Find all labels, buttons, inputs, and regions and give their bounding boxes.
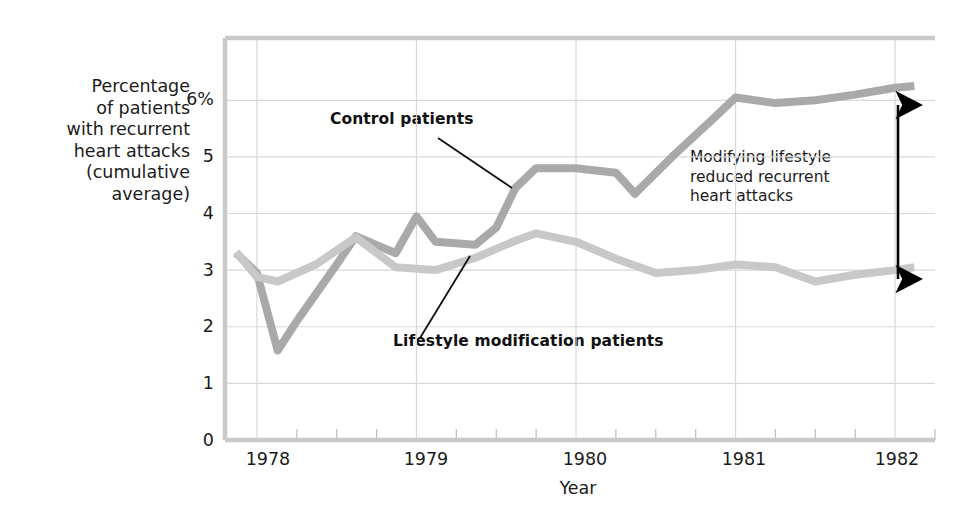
- chart-canvas: [0, 0, 953, 515]
- data-series: [236, 86, 914, 350]
- series-line-control: [236, 86, 914, 350]
- chart-figure: Percentage of patients with recurrent he…: [0, 0, 953, 515]
- control-callout-leader: [438, 138, 512, 188]
